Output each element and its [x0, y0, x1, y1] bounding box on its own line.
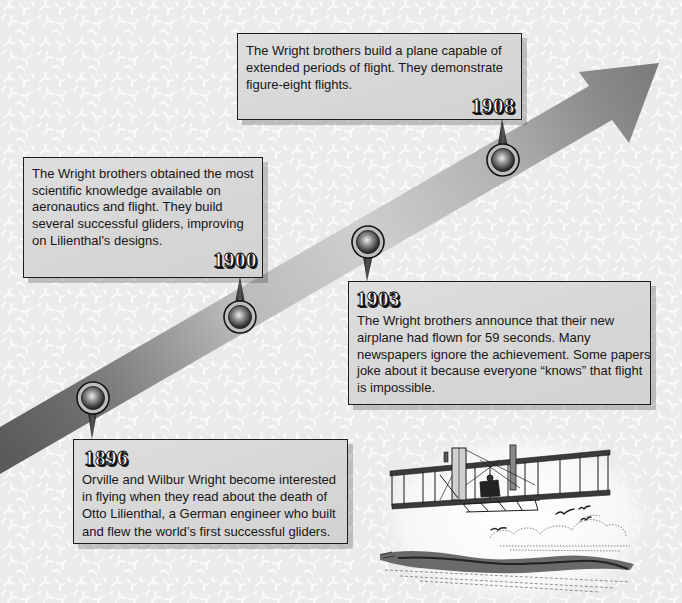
event-year: 1896 — [84, 448, 128, 468]
description-line: Otto Lilienthal, a German engineer who b… — [82, 505, 336, 522]
pin-1896-icon — [77, 382, 109, 440]
description-line: figure-eight flights. — [246, 77, 503, 94]
description-line: several successful gliders, improving — [32, 216, 254, 233]
event-description: The Wright brothers build a plane capabl… — [246, 43, 503, 93]
event-card-1896: 1896 Orville and Wilbur Wright become in… — [73, 439, 348, 544]
event-year: 1900 — [213, 250, 257, 270]
description-line: on Lilienthal's designs. — [32, 233, 254, 250]
description-line: in flying when they read about the death… — [82, 488, 336, 505]
pin-1908-icon — [487, 118, 519, 176]
event-year: 1908 — [471, 96, 515, 116]
description-line: airplane had flown for 59 seconds. Many — [357, 330, 650, 347]
description-line: is impossible. — [357, 380, 650, 397]
event-card-1908: The Wright brothers build a plane capabl… — [237, 33, 522, 120]
timeline-page: The Wright brothers build a plane capabl… — [0, 0, 682, 603]
description-line: extended periods of flight. They demonst… — [246, 60, 503, 77]
event-description: Orville and Wilbur Wright become interes… — [82, 471, 336, 540]
pin-1903-icon — [352, 226, 384, 282]
description-line: The Wright brothers build a plane capabl… — [246, 43, 503, 60]
description-line: Orville and Wilbur Wright become interes… — [82, 471, 336, 488]
event-description: The Wright brothers obtained the most sc… — [32, 166, 254, 250]
description-line: and flew the world’s first successful gl… — [82, 523, 336, 540]
description-line: scientific knowledge available on — [32, 183, 254, 200]
description-line: joke about it because everyone “knows” t… — [357, 363, 650, 380]
description-line: The Wright brothers announce that their … — [357, 313, 650, 330]
event-card-1903: 1903 The Wright brothers announce that t… — [348, 281, 651, 405]
description-line: newspapers ignore the achievement. Some … — [357, 347, 650, 364]
event-card-1900: The Wright brothers obtained the most sc… — [23, 157, 263, 278]
event-year: 1903 — [356, 289, 400, 309]
wright-flyer-biplane-icon — [380, 430, 682, 603]
description-line: The Wright brothers obtained the most — [32, 166, 254, 183]
description-line: aeronautics and flight. They build — [32, 199, 254, 216]
event-description: The Wright brothers announce that their … — [357, 313, 650, 397]
pin-1900-icon — [224, 276, 256, 333]
